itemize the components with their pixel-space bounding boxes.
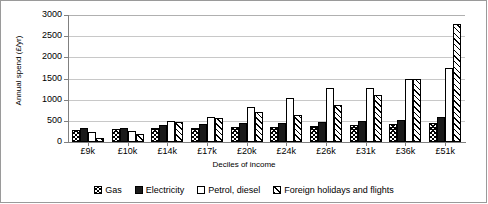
y-axis-tick-label: 2000 bbox=[28, 52, 62, 61]
legend-label: Petrol, diesel bbox=[208, 185, 260, 195]
y-axis-tick-label: 1000 bbox=[28, 95, 62, 104]
bar bbox=[247, 107, 255, 142]
bar bbox=[175, 122, 183, 142]
bar bbox=[199, 124, 207, 142]
legend-swatch-icon bbox=[94, 186, 102, 194]
bar bbox=[445, 68, 453, 142]
x-axis-tick-label: £24k bbox=[267, 146, 307, 156]
bar-group bbox=[267, 15, 307, 142]
x-axis-tick-label: £17k bbox=[187, 146, 227, 156]
x-axis-tick-label: £36k bbox=[386, 146, 426, 156]
bar bbox=[429, 123, 437, 142]
x-axis-tick-label: £9k bbox=[68, 146, 108, 156]
legend-item: Foreign holidays and flights bbox=[273, 185, 394, 195]
bar bbox=[255, 112, 263, 142]
bar bbox=[239, 123, 247, 142]
bar bbox=[350, 125, 358, 142]
bar-group bbox=[147, 15, 187, 142]
x-axis-tick-label: £20k bbox=[227, 146, 267, 156]
legend-item: Electricity bbox=[135, 185, 185, 195]
y-axis-tick-label: 1500 bbox=[28, 74, 62, 83]
bar-group bbox=[187, 15, 227, 142]
bar-group bbox=[227, 15, 267, 142]
chart-legend: GasElectricityPetrol, dieselForeign holi… bbox=[0, 185, 488, 195]
bar bbox=[96, 138, 104, 142]
bar bbox=[159, 125, 167, 142]
bar bbox=[231, 127, 239, 142]
bar bbox=[270, 127, 278, 142]
bar-group bbox=[346, 15, 386, 142]
bar bbox=[453, 24, 461, 142]
bar bbox=[80, 128, 88, 142]
bar bbox=[397, 120, 405, 142]
x-axis-tick-label: £51k bbox=[425, 146, 465, 156]
bar bbox=[326, 88, 334, 142]
x-axis-tick-label: £26k bbox=[306, 146, 346, 156]
bar bbox=[358, 121, 366, 142]
y-axis-tick-label: 2500 bbox=[28, 31, 62, 40]
legend-item: Gas bbox=[94, 185, 122, 195]
legend-swatch-icon bbox=[135, 186, 143, 194]
bar bbox=[88, 132, 96, 142]
bar-group bbox=[425, 15, 465, 142]
bar bbox=[128, 131, 136, 142]
y-axis-tick-label: 0 bbox=[28, 137, 62, 146]
bar bbox=[374, 95, 382, 142]
y-axis-tick-label: 500 bbox=[28, 116, 62, 125]
bar-group bbox=[386, 15, 426, 142]
bar bbox=[191, 128, 199, 142]
bar bbox=[437, 117, 445, 142]
legend-swatch-icon bbox=[197, 186, 205, 194]
x-axis-title: Deciles of income bbox=[0, 160, 488, 169]
y-axis-tick-label: 3000 bbox=[28, 10, 62, 19]
bar bbox=[413, 79, 421, 142]
bar bbox=[366, 88, 374, 142]
bar bbox=[167, 121, 175, 142]
legend-label: Gas bbox=[105, 185, 122, 195]
bar bbox=[286, 98, 294, 142]
bar bbox=[151, 128, 159, 142]
bar bbox=[112, 129, 120, 142]
bar bbox=[120, 128, 128, 142]
bar bbox=[136, 134, 144, 142]
bar-groups bbox=[68, 15, 465, 142]
bar bbox=[278, 123, 286, 142]
x-axis-tick-label: £10k bbox=[108, 146, 148, 156]
bar-group bbox=[108, 15, 148, 142]
bar bbox=[389, 124, 397, 142]
bar bbox=[215, 118, 223, 142]
x-axis-tick-label: £14k bbox=[147, 146, 187, 156]
x-axis-tick-labels: £9k£10k£14k£17k£20k£24k£26k£31k£36k£51k bbox=[68, 146, 465, 156]
bar bbox=[207, 117, 215, 142]
legend-item: Petrol, diesel bbox=[197, 185, 260, 195]
bar bbox=[334, 105, 342, 142]
bar-group bbox=[68, 15, 108, 142]
bar bbox=[405, 79, 413, 143]
chart-container: Annual spend (£/yr) 30002500200015001000… bbox=[0, 0, 488, 204]
x-axis-tick-label: £31k bbox=[346, 146, 386, 156]
y-axis-title: Annual spend (£/yr) bbox=[14, 6, 23, 136]
bar bbox=[294, 115, 302, 142]
legend-label: Electricity bbox=[146, 185, 185, 195]
bar bbox=[310, 126, 318, 142]
bar bbox=[318, 122, 326, 142]
legend-swatch-icon bbox=[273, 186, 281, 194]
bar-group bbox=[306, 15, 346, 142]
bar bbox=[72, 130, 80, 142]
legend-label: Foreign holidays and flights bbox=[284, 185, 394, 195]
